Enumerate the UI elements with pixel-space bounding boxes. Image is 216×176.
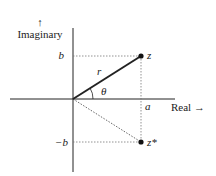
- y-axis-arrow: ↑: [37, 16, 43, 28]
- complex-plane-diagram: ↑ Imaginary Real → z z* a b −b r θ: [0, 0, 216, 176]
- point-z-conjugate: [138, 139, 143, 144]
- neg-imag-part-label: −b: [55, 136, 68, 148]
- modulus-label: r: [97, 65, 102, 77]
- real-part-label: a: [145, 100, 151, 112]
- angle-label: θ: [101, 85, 107, 97]
- conjugate-vector: [73, 99, 141, 142]
- point-z: [138, 53, 143, 58]
- imag-part-label: b: [59, 49, 65, 61]
- x-axis-label: Real →: [171, 101, 205, 113]
- point-conj-label: z*: [146, 136, 157, 148]
- point-z-label: z: [146, 49, 152, 61]
- y-axis-label: Imaginary: [17, 28, 63, 40]
- modulus-vector: [73, 56, 141, 99]
- angle-arc: [90, 88, 93, 99]
